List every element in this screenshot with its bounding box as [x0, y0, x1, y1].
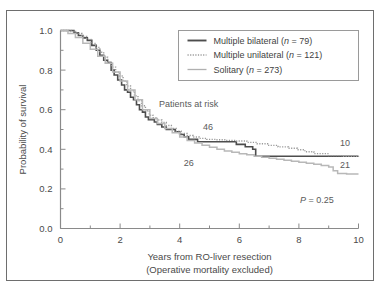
annotation-3: 10 [340, 138, 350, 148]
x-tick-label: 6 [237, 234, 242, 245]
x-tick-label: 2 [117, 234, 122, 245]
y-tick-label: 1.0 [39, 25, 52, 36]
y-tick-label: 0.4 [39, 144, 52, 155]
x-tick-label: 8 [296, 234, 301, 245]
y-tick-label: 0.2 [39, 183, 52, 194]
legend-label-0: Multiple bilateral (n = 79) [214, 36, 313, 46]
y-tick-label: 0.0 [39, 223, 52, 234]
annotation-0: Patients at risk [159, 99, 219, 109]
y-axis-title: Probability of survival [17, 85, 28, 175]
p-value-annotation: P = 0.25 [300, 195, 334, 205]
x-tick-label: 4 [177, 234, 182, 245]
x-tick-label: 10 [353, 234, 364, 245]
annotation-1: 46 [203, 122, 213, 132]
figure-root: 02468100.00.20.40.60.81.0Years from RO-l… [0, 0, 384, 296]
x-tick-label: 0 [58, 234, 63, 245]
y-tick-label: 0.6 [39, 104, 52, 115]
legend-label-2: Solitary (n = 273) [214, 65, 283, 75]
annotation-4: 21 [340, 160, 350, 170]
y-tick-label: 0.8 [39, 65, 52, 76]
x-axis-title-line1: Years from RO-liver resection [147, 251, 271, 262]
annotation-2: 26 [184, 158, 194, 168]
legend-label-1: Multiple unilateral (n = 121) [214, 50, 323, 60]
x-axis-title-line2: (Operative mortality excluded) [146, 264, 273, 275]
survival-chart: 02468100.00.20.40.60.81.0Years from RO-l… [0, 0, 384, 296]
